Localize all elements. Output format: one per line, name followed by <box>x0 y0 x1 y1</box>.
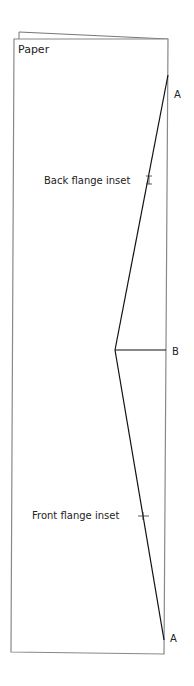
back-flange-inset-label: Back flange inset <box>44 175 130 186</box>
point-a-bottom-label: A <box>170 633 177 644</box>
paper-fold-diagram: Paper A B A Back flange inset Front flan… <box>0 0 194 686</box>
point-a-top-label: A <box>174 89 181 100</box>
paper-title: Paper <box>18 43 50 56</box>
front-flange-inset-label: Front flange inset <box>32 510 119 521</box>
paper-sheet <box>11 39 168 654</box>
point-b-label: B <box>172 346 179 357</box>
